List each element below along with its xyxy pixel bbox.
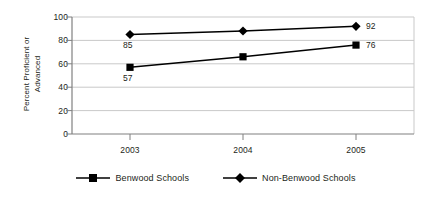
data-point-marker-square	[352, 41, 359, 48]
y-axis-ticks	[66, 17, 72, 134]
data-label-non-benwood-2003: 85	[123, 40, 133, 50]
x-tick-2004: 2004	[233, 145, 252, 155]
x-tick-2005: 2005	[346, 145, 365, 155]
legend-label-non-benwood-schools: Non-Benwood Schools	[262, 173, 355, 183]
legend-key-diamond-icon	[223, 172, 257, 184]
data-point-marker-diamond	[125, 30, 134, 39]
chart-legend: Benwood Schools Non-Benwood Schools	[0, 172, 432, 184]
data-point-marker-diamond	[351, 22, 360, 31]
legend-item-non-benwood-schools[interactable]: Non-Benwood Schools	[223, 172, 355, 184]
data-point-marker-diamond	[238, 27, 247, 36]
x-axis-ticks	[130, 134, 356, 140]
x-tick-2003: 2003	[120, 145, 139, 155]
legend-item-benwood-schools[interactable]: Benwood Schools	[76, 172, 189, 184]
legend-label-benwood-schools: Benwood Schools	[115, 173, 189, 183]
legend-key-square-icon	[76, 172, 110, 184]
data-point-marker-square	[126, 64, 133, 71]
chart-figure: Percent Proficient or Advanced 100 80 60…	[0, 0, 432, 198]
series-non-benwood-schools	[125, 22, 360, 39]
data-label-non-benwood-2005: 92	[366, 21, 376, 31]
data-point-marker-square	[239, 53, 246, 60]
series-benwood-schools	[126, 41, 359, 70]
data-label-benwood-2003: 57	[123, 73, 133, 83]
data-label-benwood-2005: 76	[366, 40, 376, 50]
